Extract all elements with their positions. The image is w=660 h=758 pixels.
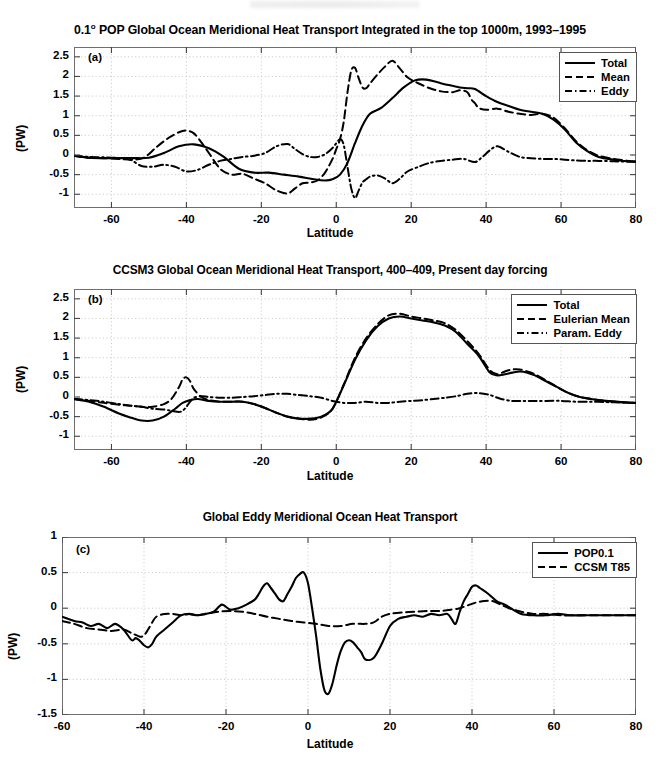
panel-b-x-axis-label: Latitude <box>0 469 660 483</box>
dashed-line-key-icon <box>564 72 596 82</box>
solid-line-key-icon <box>564 58 596 68</box>
solid-line-key-icon <box>537 548 569 558</box>
y-tick-label: -1.5 <box>37 707 57 719</box>
solid-line-key-icon <box>516 300 548 310</box>
dashed-line-key-icon <box>537 562 569 572</box>
panel-b-title: CCSM3 Global Ocean Meridional Heat Trans… <box>0 263 660 277</box>
x-tick-label: 20 <box>386 455 436 467</box>
legend-item-param-eddy: Param. Eddy <box>516 326 630 340</box>
x-tick-label: 40 <box>461 455 511 467</box>
x-tick-label: 20 <box>386 213 436 225</box>
legend-item-ccsm-t85: CCSM T85 <box>537 560 630 574</box>
y-tick-label: -1 <box>59 428 69 440</box>
dashdot-line-key-icon <box>516 328 548 338</box>
x-tick-label: -60 <box>37 720 87 732</box>
panel-b-tag: (b) <box>88 293 103 305</box>
x-tick-label: 80 <box>611 720 660 732</box>
x-tick-label: -20 <box>201 720 251 732</box>
x-tick-label: 60 <box>536 213 586 225</box>
y-tick-label: 1 <box>63 350 69 362</box>
x-tick-label: 60 <box>536 455 586 467</box>
y-tick-label: -1 <box>59 186 69 198</box>
y-tick-label: 1 <box>51 529 57 541</box>
legend-item-mean: Mean <box>564 70 630 84</box>
panel-b-legend: Total Eulerian Mean Param. Eddy <box>511 294 637 344</box>
series-mean <box>74 61 636 194</box>
panel-a-x-axis-label: Latitude <box>0 226 660 240</box>
x-tick-label: 40 <box>447 720 497 732</box>
chart-panel-c: Global Eddy Meridional Ocean Heat Transp… <box>0 500 660 758</box>
y-tick-label: 2.5 <box>53 291 69 303</box>
panel-a-plot-area: (a) <box>74 47 636 208</box>
series-ccsm-t85 <box>62 601 636 637</box>
dashdot-line-key-icon <box>564 86 596 96</box>
x-tick-label: -20 <box>236 455 286 467</box>
panel-c-legend: POP0.1 CCSM T85 <box>532 542 637 578</box>
series-param-eddy <box>74 393 636 412</box>
y-tick-label: -1 <box>47 671 57 683</box>
legend-item-eulerian-mean: Eulerian Mean <box>516 312 630 326</box>
y-tick-label: 0 <box>51 600 57 612</box>
panel-b-y-axis-label: (PW) <box>14 366 28 393</box>
y-tick-label: 1.5 <box>53 88 69 100</box>
legend-item-total: Total <box>564 56 630 70</box>
panel-c-x-axis-label: Latitude <box>0 737 660 751</box>
x-tick-label: -40 <box>119 720 169 732</box>
x-tick-label: 80 <box>611 455 660 467</box>
panel-c-title: Global Eddy Meridional Ocean Heat Transp… <box>0 510 660 524</box>
panel-a-title: 0.1o POP Global Ocean Meridional Heat Tr… <box>0 22 660 37</box>
panel-a-tag: (a) <box>88 51 102 63</box>
x-tick-label: 60 <box>529 720 579 732</box>
chart-panel-a: 0.1o POP Global Ocean Meridional Heat Tr… <box>0 0 660 248</box>
y-tick-label: 1 <box>63 108 69 120</box>
y-tick-label: 0.5 <box>53 127 69 139</box>
y-tick-label: 0.5 <box>53 369 69 381</box>
y-tick-label: -0.5 <box>49 167 69 179</box>
x-tick-label: 0 <box>311 455 361 467</box>
x-tick-label: 20 <box>365 720 415 732</box>
panel-a-y-axis-label: (PW) <box>14 125 28 152</box>
y-tick-label: 2 <box>63 310 69 322</box>
y-tick-label: 0 <box>63 389 69 401</box>
panel-a-legend: Total Mean Eddy <box>559 52 637 102</box>
chart-panel-b: CCSM3 Global Ocean Meridional Heat Trans… <box>0 248 660 500</box>
x-tick-label: 0 <box>283 720 333 732</box>
y-tick-label: 2 <box>63 68 69 80</box>
legend-item-pop01: POP0.1 <box>537 546 630 560</box>
x-tick-label: 80 <box>611 213 660 225</box>
legend-item-eddy: Eddy <box>564 84 630 98</box>
legend-item-total: Total <box>516 298 630 312</box>
y-tick-label: -0.5 <box>37 636 57 648</box>
y-tick-label: -0.5 <box>49 409 69 421</box>
x-tick-label: 40 <box>461 213 511 225</box>
y-tick-label: 2.5 <box>53 49 69 61</box>
series-pop0-1 <box>62 572 636 694</box>
panel-a-curves <box>74 47 636 208</box>
y-tick-label: 1.5 <box>53 330 69 342</box>
series-eddy <box>74 139 636 198</box>
x-tick-label: -40 <box>161 455 211 467</box>
y-tick-label: 0.5 <box>41 565 57 577</box>
x-tick-label: -60 <box>86 213 136 225</box>
panel-c-y-axis-label: (PW) <box>6 633 20 660</box>
x-tick-label: -40 <box>161 213 211 225</box>
x-tick-label: -60 <box>86 455 136 467</box>
y-tick-label: 0 <box>63 147 69 159</box>
x-tick-label: 0 <box>311 213 361 225</box>
dashed-line-key-icon <box>516 314 548 324</box>
x-tick-label: -20 <box>236 213 286 225</box>
panel-c-tag: (c) <box>76 543 90 555</box>
